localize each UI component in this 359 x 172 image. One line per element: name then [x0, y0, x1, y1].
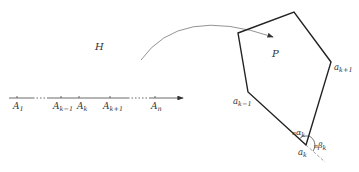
- tick-label-ak: Ak: [76, 101, 88, 113]
- conformal-map-diagram: A1 Ak−1 Ak Ak+1 An H P ak+1 ak−1 ak παk …: [0, 0, 359, 172]
- vertex-label-ak-plus-1: ak+1: [334, 62, 353, 74]
- half-plane-label: H: [94, 41, 104, 52]
- exterior-angle-label: πβk: [314, 141, 327, 152]
- mapping-arrow: [141, 25, 273, 60]
- tick-label-ak-plus-1: Ak+1: [102, 101, 123, 113]
- vertex-label-ak-minus-1: ak−1: [233, 96, 252, 108]
- real-axis: [9, 96, 183, 98]
- interior-angle-label: παk: [292, 128, 305, 139]
- vertex-label-ak: ak: [298, 147, 307, 159]
- tick-label-a1: A1: [12, 101, 24, 113]
- polygon-label: P: [271, 48, 279, 59]
- tick-label-ak-minus-1: Ak−1: [52, 101, 73, 113]
- tick-label-an: An: [150, 101, 162, 113]
- polygon-p: [238, 12, 331, 145]
